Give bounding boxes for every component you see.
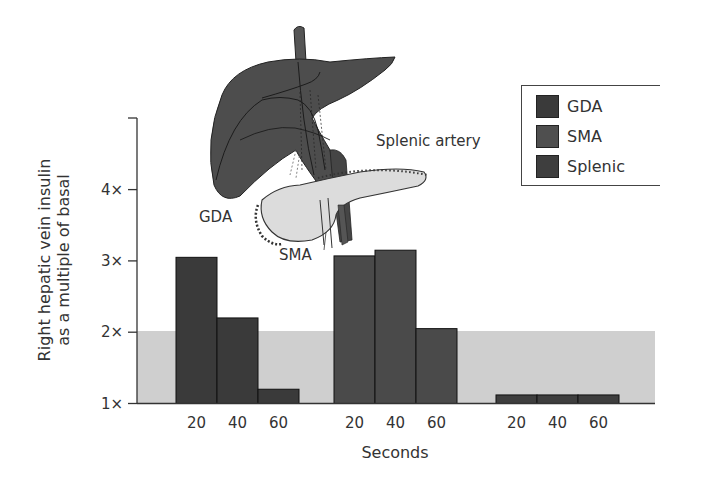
- bar-sma-20: [334, 256, 375, 404]
- vena-cava: [294, 26, 306, 62]
- x-axis-title: Seconds: [361, 443, 428, 462]
- y-tick-label: 2×: [101, 323, 123, 341]
- x-tick-label: 20: [187, 414, 206, 432]
- legend-swatch-gda: [536, 95, 559, 118]
- svg-text:as a multiple of basal: as a multiple of basal: [54, 174, 73, 346]
- y-axis: 1×2×3×4×: [101, 118, 137, 413]
- legend-label-gda: GDA: [567, 97, 602, 116]
- legend: GDA SMA Splenic: [521, 85, 660, 186]
- x-tick-label: 40: [386, 414, 405, 432]
- x-tick-label: 20: [345, 414, 364, 432]
- legend-item-gda: GDA: [536, 93, 602, 119]
- x-tick-label: 40: [548, 414, 567, 432]
- label-splenic-artery: Splenic artery: [376, 132, 481, 150]
- legend-label-sma: SMA: [567, 127, 602, 146]
- bar-splenic-60: [578, 395, 619, 404]
- x-tick-label: 60: [589, 414, 608, 432]
- label-sma: SMA: [279, 246, 312, 264]
- bar-splenic-20: [496, 395, 537, 404]
- legend-swatch-splenic: [536, 155, 559, 178]
- bar-splenic-40: [537, 395, 578, 404]
- bar-gda-40: [217, 318, 258, 404]
- legend-item-splenic: Splenic: [536, 153, 625, 179]
- y-tick-label: 1×: [101, 395, 123, 413]
- bar-gda-20: [176, 257, 217, 403]
- y-tick-label: 3×: [101, 252, 123, 270]
- x-tick-label: 60: [427, 414, 446, 432]
- svg-text:Right hepatic vein insulin: Right hepatic vein insulin: [35, 159, 54, 362]
- y-tick-label: 4×: [101, 181, 123, 199]
- y-axis-title: Right hepatic vein insulin as a multiple…: [35, 159, 73, 362]
- legend-swatch-sma: [536, 125, 559, 148]
- bar-gda-60: [258, 389, 299, 403]
- x-tick-label: 40: [228, 414, 247, 432]
- x-tick-label: 20: [507, 414, 526, 432]
- x-tick-label: 60: [269, 414, 288, 432]
- label-gda: GDA: [199, 208, 233, 226]
- bar-sma-40: [375, 250, 416, 403]
- x-tick-labels: 204060204060204060: [187, 414, 608, 432]
- chart-canvas: 1×2×3×4× 204060204060204060 Seconds Righ…: [0, 0, 702, 486]
- bar-sma-60: [416, 329, 457, 404]
- legend-label-splenic: Splenic: [567, 157, 625, 176]
- legend-item-sma: SMA: [536, 123, 602, 149]
